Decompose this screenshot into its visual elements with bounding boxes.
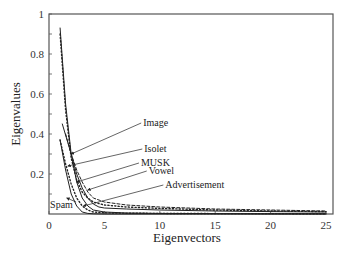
x-tick-label: 0 [46, 219, 52, 231]
y-tick-label: 0.4 [30, 128, 44, 140]
y-tick-label: 0.8 [30, 48, 44, 60]
series-musk [62, 124, 326, 212]
annotation-advertisement: Advertisement [165, 179, 224, 190]
eigenvalue-chart: 05101520250.20.40.60.81 ImageIsoletMUSKV… [0, 0, 340, 254]
series-advertisement [60, 140, 326, 214]
annotation-vowel: Vowel [149, 165, 175, 176]
annotation-image: Image [143, 117, 169, 128]
y-axis-label: Eigenvalues [8, 82, 23, 146]
axis-ticks: 05101520250.20.40.60.81 [30, 8, 332, 231]
x-tick-label: 25 [321, 219, 333, 231]
y-tick-label: 0.2 [30, 168, 44, 180]
x-tick-label: 20 [265, 219, 277, 231]
series-vowel [66, 134, 326, 211]
series-spam [60, 140, 326, 214]
x-axis-label: Eigenvectors [153, 230, 221, 245]
annotation-isolet: Isolet [144, 143, 166, 154]
y-tick-label: 0.6 [30, 88, 44, 100]
y-tick-label: 1 [39, 8, 45, 20]
annotation-spam: Spam [50, 199, 73, 210]
x-tick-label: 5 [102, 219, 108, 231]
